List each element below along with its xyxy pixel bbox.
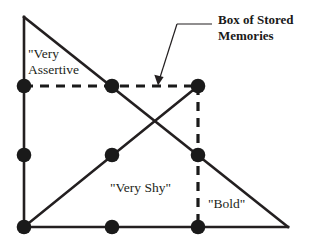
callout-arrowhead-icon [154,75,163,86]
label-very-assertive: "Very Assertive [28,46,79,78]
node-left-upper [17,79,32,94]
label-bold: "Bold" [208,196,245,211]
node-right-upper [191,79,206,94]
node-right-middle [191,148,206,163]
node-mid-bottom [105,220,120,235]
diagram-canvas: "Very Assertive "Very Shy" "Bold" Box of… [0,0,315,246]
node-mid-upper [105,79,120,94]
node-left-middle [17,148,32,163]
callout-leader-line [154,24,212,86]
node-right-bottom [191,220,206,235]
callout-leader-diagonal-segment [160,24,178,79]
node-mid-middle [105,148,120,163]
node-left-bottom [17,220,32,235]
label-very-shy: "Very Shy" [110,180,171,195]
label-box-of-stored-memories: Box of Stored Memories [218,12,294,43]
